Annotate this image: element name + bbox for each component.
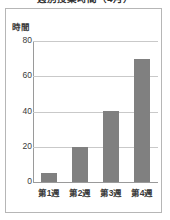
y-axis-label: 時間 <box>12 20 30 32</box>
y-tick: 40 <box>2 107 32 117</box>
gridline <box>33 182 158 183</box>
x-tick-label: 第3週 <box>95 186 127 200</box>
y-tick-label: 80 <box>6 36 32 45</box>
y-tick-label: 20 <box>6 142 32 151</box>
y-tick-label: 40 <box>6 107 32 116</box>
chart-title: 週別授業時間（4月） <box>0 0 170 6</box>
y-tick-label: 60 <box>6 71 32 80</box>
y-tick: 60 <box>2 71 32 81</box>
x-axis-tick-labels: 第1週第2週第3週第4週 <box>33 186 158 202</box>
x-tick-label: 第2週 <box>64 186 96 200</box>
bar-chart-figure: 週別授業時間（4月） 時間 020406080 第1週第2週第3週第4週 <box>0 0 170 220</box>
y-tick: 20 <box>2 142 32 152</box>
y-tick-label: 0 <box>6 177 32 186</box>
bar <box>72 147 88 182</box>
bar <box>41 173 57 182</box>
x-tick-label: 第4週 <box>126 186 158 200</box>
y-tick: 80 <box>2 36 32 46</box>
bar <box>103 111 119 182</box>
y-tick: 0 <box>2 177 32 187</box>
bar-series <box>33 41 158 182</box>
plot-area <box>33 41 158 182</box>
x-tick-label: 第1週 <box>33 186 65 200</box>
bar <box>134 59 150 182</box>
